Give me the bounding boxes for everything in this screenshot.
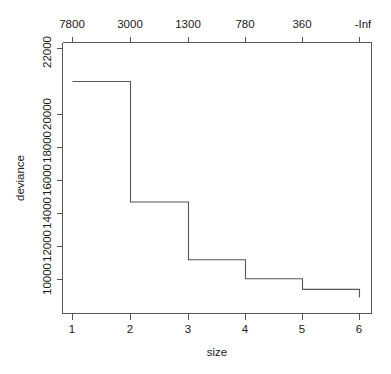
y-axis-ticks — [57, 49, 63, 280]
y-tick-label-20000: 20000 — [41, 98, 53, 130]
y-axis-title: deviance — [14, 155, 26, 201]
deviance-size-step-plot: 7800 3000 1300 780 360 -Inf 10000 12000 … — [0, 0, 391, 374]
top-axis-tick-labels: 7800 3000 1300 780 360 -Inf — [59, 18, 372, 30]
x-tick-label-3: 3 — [185, 323, 191, 335]
top-tick-label-5: 360 — [292, 18, 311, 30]
chart-container: 7800 3000 1300 780 360 -Inf 10000 12000 … — [0, 0, 391, 374]
x-axis-title: size — [207, 346, 227, 358]
y-axis-tick-labels: 10000 12000 14000 16000 18000 20000 2200… — [41, 36, 53, 295]
x-tick-label-4: 4 — [242, 323, 249, 335]
step-line-series — [73, 82, 360, 298]
y-tick-label-18000: 18000 — [41, 131, 53, 163]
x-tick-label-2: 2 — [127, 323, 133, 335]
top-tick-label-4: 780 — [235, 18, 254, 30]
y-tick-label-12000: 12000 — [41, 230, 53, 262]
y-tick-label-10000: 10000 — [41, 263, 53, 295]
top-tick-label-6: -Inf — [355, 18, 372, 30]
top-axis-ticks — [73, 37, 360, 43]
top-tick-label-2: 3000 — [117, 18, 143, 30]
top-tick-label-3: 1300 — [175, 18, 201, 30]
x-tick-label-6: 6 — [356, 323, 362, 335]
y-tick-label-14000: 14000 — [41, 197, 53, 229]
plot-frame — [63, 43, 372, 314]
x-tick-label-5: 5 — [299, 323, 305, 335]
x-axis-ticks — [73, 314, 360, 320]
x-tick-label-1: 1 — [69, 323, 75, 335]
y-tick-label-16000: 16000 — [41, 164, 53, 196]
y-tick-label-22000: 22000 — [41, 36, 53, 68]
x-axis-tick-labels: 1 2 3 4 5 6 — [69, 323, 362, 335]
top-tick-label-1: 7800 — [59, 18, 85, 30]
